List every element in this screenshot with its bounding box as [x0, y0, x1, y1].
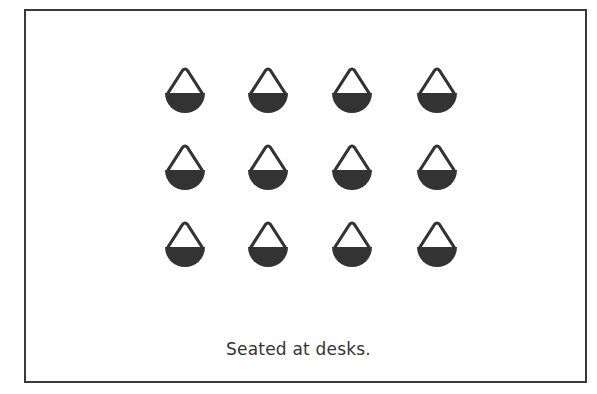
- diagram-frame: [24, 9, 587, 383]
- seated-person-icon: [415, 220, 459, 270]
- seated-person-icon: [163, 143, 207, 193]
- seated-person-icon: [163, 220, 207, 270]
- seated-person-icon: [415, 143, 459, 193]
- seated-person-icon: [330, 220, 374, 270]
- seated-person-icon: [415, 66, 459, 116]
- seated-person-icon: [330, 66, 374, 116]
- caption: Seated at desks.: [0, 339, 597, 359]
- seated-person-icon: [246, 66, 290, 116]
- seated-person-icon: [163, 66, 207, 116]
- seated-person-icon: [330, 143, 374, 193]
- seated-person-icon: [246, 143, 290, 193]
- seated-person-icon: [246, 220, 290, 270]
